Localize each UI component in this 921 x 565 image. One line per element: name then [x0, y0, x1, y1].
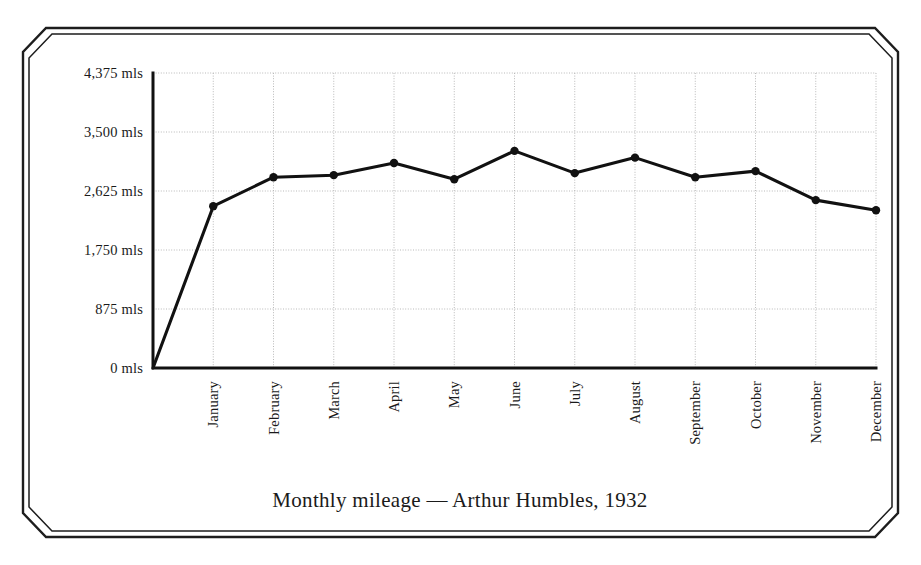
- data-point-marker: [330, 171, 338, 179]
- y-axis-tick-labels: 0 mls875 mls1,750 mls2,625 mls3,500 mls4…: [84, 65, 143, 376]
- data-point-marker: [751, 167, 759, 175]
- chart-title: Monthly mileage — Arthur Humbles, 1932: [272, 488, 647, 512]
- data-point-marker: [269, 173, 277, 181]
- data-point-marker: [872, 206, 880, 214]
- y-axis-tick-label: 4,375 mls: [84, 65, 143, 81]
- data-point-marker: [209, 202, 217, 210]
- x-axis-tick-label: July: [567, 380, 583, 406]
- x-axis-tick-label: February: [266, 380, 282, 434]
- x-axis-tick-label: May: [446, 380, 462, 408]
- x-axis-tick-label: November: [808, 381, 824, 444]
- data-point-marker: [691, 173, 699, 181]
- x-axis-tick-label: September: [687, 381, 703, 445]
- x-axis-tick-labels: JanuaryFebruaryMarchAprilMayJuneJulyAugu…: [205, 380, 884, 444]
- y-axis-tick-label: 0 mls: [110, 360, 143, 376]
- mileage-series-markers: [209, 147, 880, 215]
- mileage-series-line: [153, 151, 876, 368]
- data-point-marker: [571, 169, 579, 177]
- x-axis-tick-label: April: [386, 381, 402, 413]
- x-axis-tick-label: January: [205, 380, 221, 427]
- line-chart: 0 mls875 mls1,750 mls2,625 mls3,500 mls4…: [0, 0, 921, 565]
- y-axis-tick-label: 875 mls: [95, 301, 143, 317]
- x-axis-tick-label: March: [326, 380, 342, 419]
- data-point-marker: [390, 159, 398, 167]
- y-axis-tick-label: 2,625 mls: [84, 183, 143, 199]
- chart-page: 0 mls875 mls1,750 mls2,625 mls3,500 mls4…: [0, 0, 921, 565]
- data-point-marker: [631, 153, 639, 161]
- gridlines: [153, 73, 876, 368]
- x-axis-tick-label: August: [627, 381, 643, 424]
- y-axis-tick-label: 1,750 mls: [84, 242, 143, 258]
- x-axis-tick-label: June: [507, 381, 523, 408]
- y-axis-tick-label: 3,500 mls: [84, 124, 143, 140]
- x-axis-tick-label: December: [868, 381, 884, 442]
- x-axis-tick-label: October: [748, 381, 764, 429]
- data-point-marker: [510, 147, 518, 155]
- data-point-marker: [812, 196, 820, 204]
- data-point-marker: [450, 175, 458, 183]
